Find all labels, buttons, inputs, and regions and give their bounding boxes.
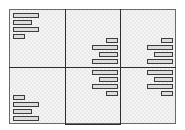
text-line-placeholder	[13, 102, 39, 107]
text-line-placeholder	[147, 84, 173, 89]
text-line-placeholder	[106, 91, 118, 96]
text-line-placeholder	[154, 52, 173, 57]
text-line-placeholder	[13, 34, 25, 39]
diagram-canvas	[0, 0, 185, 130]
row-divider	[9, 67, 176, 68]
text-line-placeholder	[92, 84, 118, 89]
text-line-placeholder	[147, 45, 173, 50]
text-line-placeholder	[161, 91, 173, 96]
text-line-placeholder	[13, 20, 32, 25]
text-line-placeholder	[106, 38, 118, 43]
bottom-middle-edge	[65, 124, 121, 125]
text-line-placeholder	[13, 95, 25, 100]
text-line-placeholder	[92, 59, 118, 64]
text-line-placeholder	[13, 13, 39, 18]
text-line-placeholder	[99, 52, 118, 57]
text-line-placeholder	[147, 70, 173, 75]
text-line-placeholder	[147, 59, 173, 64]
text-line-placeholder	[99, 77, 118, 82]
text-line-placeholder	[154, 77, 173, 82]
text-line-placeholder	[13, 109, 32, 114]
text-line-placeholder	[13, 27, 39, 32]
text-line-placeholder	[13, 116, 39, 121]
text-line-placeholder	[92, 45, 118, 50]
text-line-placeholder	[161, 38, 173, 43]
text-line-placeholder	[92, 70, 118, 75]
